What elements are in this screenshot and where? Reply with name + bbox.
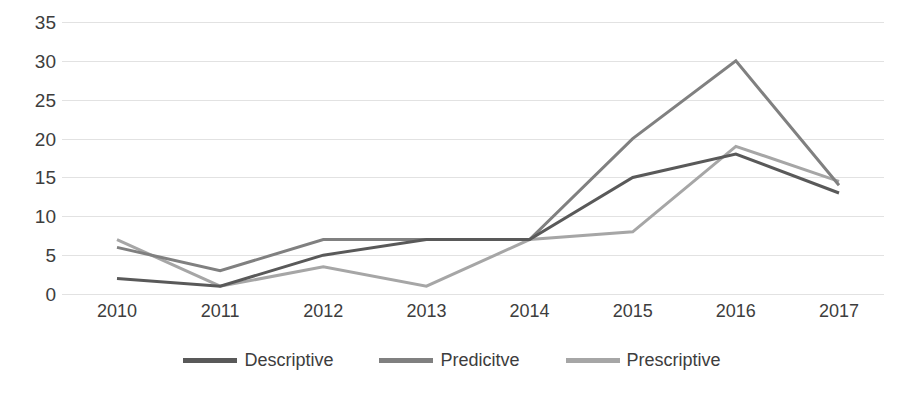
y-tick-label: 35 xyxy=(0,13,56,32)
x-tick-label: 2013 xyxy=(406,300,446,322)
y-tick-label: 15 xyxy=(0,168,56,187)
legend-item[interactable]: Predicitve xyxy=(379,349,519,371)
series-layer xyxy=(62,22,884,294)
y-tick-label: 20 xyxy=(0,129,56,148)
legend-item[interactable]: Prescriptive xyxy=(566,349,721,371)
x-tick-label: 2015 xyxy=(613,300,653,322)
legend-swatch-icon xyxy=(183,358,237,363)
x-tick-label: 2014 xyxy=(510,300,550,322)
line-chart: 05101520253035 2010201120122013201420152… xyxy=(0,0,904,394)
gridline xyxy=(62,294,884,295)
x-axis: 20102011201220132014201520162017 xyxy=(62,300,884,328)
legend-item[interactable]: Descriptive xyxy=(183,349,333,371)
x-tick-label: 2016 xyxy=(716,300,756,322)
legend-label: Predicitve xyxy=(440,349,519,371)
y-tick-label: 25 xyxy=(0,90,56,109)
series-line xyxy=(117,154,839,286)
y-tick-label: 10 xyxy=(0,207,56,226)
x-tick-label: 2011 xyxy=(201,300,240,322)
x-tick-label: 2010 xyxy=(97,300,137,322)
legend-swatch-icon xyxy=(379,358,433,363)
series-line xyxy=(117,146,839,286)
y-axis: 05101520253035 xyxy=(0,0,56,294)
plot-area xyxy=(62,22,884,294)
x-tick-label: 2012 xyxy=(303,300,343,322)
legend-swatch-icon xyxy=(566,358,620,363)
legend-label: Descriptive xyxy=(244,349,333,371)
y-tick-label: 0 xyxy=(0,285,56,304)
legend-label: Prescriptive xyxy=(627,349,721,371)
y-tick-label: 5 xyxy=(0,246,56,265)
x-tick-label: 2017 xyxy=(819,300,859,322)
y-tick-label: 30 xyxy=(0,51,56,70)
chart-legend: DescriptivePredicitvePrescriptive xyxy=(0,345,904,375)
